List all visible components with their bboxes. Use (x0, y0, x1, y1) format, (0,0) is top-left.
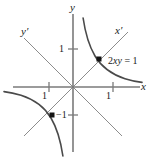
equation-label: 2xy = 1 (108, 56, 138, 66)
equation-relation: = 1 (122, 55, 138, 66)
hyperbola-branch-first-quadrant (83, 18, 142, 82)
y-prime-axis-label: y′ (21, 26, 28, 37)
x-axis-tick-label-positive-one: 1 (106, 91, 111, 101)
hyperbola-branch-third-quadrant (4, 92, 63, 156)
figure-canvas (0, 0, 153, 158)
y-axis-label: y (70, 2, 75, 13)
x-axis-label: x (141, 81, 146, 92)
y-axis-tick-label-one: 1 (59, 44, 64, 54)
hyperbola-figure: y x y′ x′ 1 −1 1 1 2xy = 1 (0, 0, 153, 158)
equation-variables: xy (113, 55, 122, 66)
x-prime-axis-label: x′ (115, 25, 122, 36)
vertex-marker-negative (50, 113, 55, 118)
x-axis-tick-label-negative-one: 1 (42, 91, 47, 101)
y-axis-tick-label-negative-one: −1 (56, 110, 67, 120)
vertex-marker-positive (97, 57, 102, 62)
